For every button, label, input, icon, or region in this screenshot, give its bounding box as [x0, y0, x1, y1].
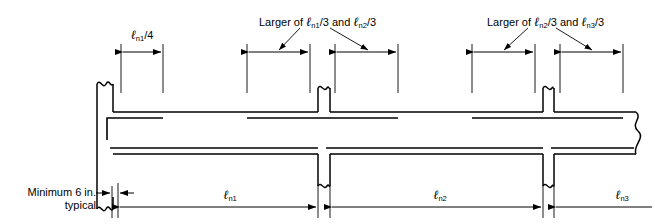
ell-glyph: ℓ: [353, 15, 358, 29]
ell-subscript: n1: [228, 194, 236, 203]
top-extension-lines: [121, 44, 623, 93]
span-label-ln2: ℓn2: [410, 188, 470, 203]
ell-subscript: n1: [136, 34, 144, 43]
note-line-2: typical: [8, 199, 96, 212]
callout-conjunction: and: [329, 16, 353, 28]
dimension-label-ln1-over-4: ℓn1/4: [106, 28, 178, 43]
ell-subscript: n3: [620, 194, 628, 203]
ell-subscript: n2: [359, 21, 367, 30]
exterior-column-left: [97, 82, 113, 211]
callout-conjunction: and: [557, 16, 581, 28]
note-line-1: Minimum 6 in.: [8, 186, 96, 199]
bottom-extension-lines: [112, 183, 554, 218]
callout-leader-lines: [279, 28, 592, 50]
term2-suffix: /3: [595, 16, 604, 28]
callout-larger-of-ln2-ln3: Larger of ℓn2/3 and ℓn3/3: [487, 15, 604, 30]
interior-column-1: [318, 87, 330, 188]
term2-suffix: /3: [367, 16, 376, 28]
ell-subscript: n1: [311, 21, 319, 30]
ell-subscript: n2: [539, 21, 547, 30]
ell-subscript: n2: [438, 194, 446, 203]
span-label-ln1: ℓn1: [200, 188, 260, 203]
ell-suffix: /4: [144, 29, 153, 41]
ell-glyph: ℓ: [581, 15, 586, 29]
callout-prefix: Larger of: [259, 16, 306, 28]
term1-suffix: /3: [548, 16, 557, 28]
ell-subscript: n3: [587, 21, 595, 30]
top-reinforcement-bars: [107, 118, 623, 140]
callout-larger-of-ln1-ln2: Larger of ℓn1/3 and ℓn2/3: [259, 15, 376, 30]
span-label-ln3: ℓn3: [592, 188, 652, 203]
interior-column-2: [543, 87, 554, 188]
note-minimum-6in: Minimum 6 in. typical: [8, 186, 96, 212]
beam-reinforcement-detail-drawing: [0, 0, 655, 224]
term1-suffix: /3: [320, 16, 329, 28]
callout-prefix: Larger of: [487, 16, 534, 28]
figure-canvas: ℓn1/4 Larger of ℓn1/3 and ℓn2/3 Larger o…: [0, 0, 655, 224]
